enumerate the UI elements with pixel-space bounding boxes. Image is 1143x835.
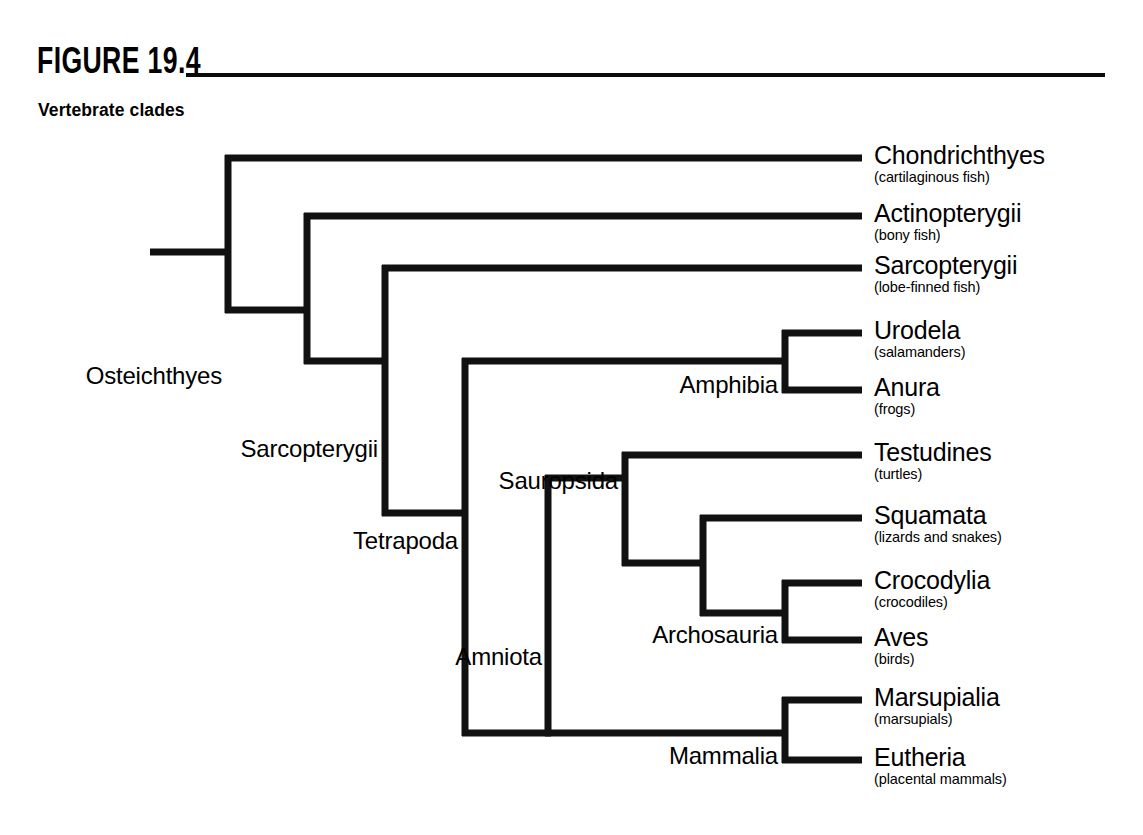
- taxon-name: Squamata: [874, 502, 1002, 529]
- taxon-name: Sarcopterygii: [874, 252, 1017, 279]
- taxon-name: Crocodylia: [874, 567, 990, 594]
- taxon-aves: Aves (birds): [874, 624, 928, 668]
- taxon-common-name: (marsupials): [874, 711, 1000, 728]
- taxon-common-name: (crocodiles): [874, 594, 990, 611]
- taxon-common-name: (cartilaginous fish): [874, 169, 1045, 186]
- cladogram: Chondrichthyes (cartilaginous fish) Acti…: [0, 0, 1143, 835]
- taxon-name: Aves: [874, 624, 928, 651]
- taxon-common-name: (birds): [874, 651, 928, 668]
- taxon-testudines: Testudines (turtles): [874, 439, 992, 483]
- taxon-common-name: (lobe-finned fish): [874, 279, 1017, 296]
- taxon-anura: Anura (frogs): [874, 374, 940, 418]
- taxon-marsupialia: Marsupialia (marsupials): [874, 684, 1000, 728]
- node-label-sarcopterygii: Sarcopterygii: [60, 435, 378, 463]
- taxon-urodela: Urodela (salamanders): [874, 317, 965, 361]
- node-label-archosauria: Archosauria: [540, 621, 778, 649]
- taxon-name: Marsupialia: [874, 684, 1000, 711]
- taxon-name: Eutheria: [874, 744, 1007, 771]
- taxon-common-name: (frogs): [874, 401, 940, 418]
- node-label-osteichthyes: Osteichthyes: [0, 362, 222, 390]
- taxon-common-name: (turtles): [874, 466, 992, 483]
- taxon-sarcopterygii: Sarcopterygii (lobe-finned fish): [874, 252, 1017, 296]
- taxon-name: Actinopterygii: [874, 200, 1021, 227]
- taxon-name: Urodela: [874, 317, 965, 344]
- taxon-squamata: Squamata (lizards and snakes): [874, 502, 1002, 546]
- taxon-crocodylia: Crocodylia (crocodiles): [874, 567, 990, 611]
- taxon-name: Anura: [874, 374, 940, 401]
- node-label-amniota: Amniota: [300, 643, 542, 671]
- node-label-amphibia: Amphibia: [560, 371, 778, 399]
- taxon-name: Chondrichthyes: [874, 142, 1045, 169]
- taxon-common-name: (placental mammals): [874, 771, 1007, 788]
- taxon-actinopterygii: Actinopterygii (bony fish): [874, 200, 1021, 244]
- taxon-eutheria: Eutheria (placental mammals): [874, 744, 1007, 788]
- node-label-mammalia: Mammalia: [540, 742, 778, 770]
- node-label-tetrapoda: Tetrapoda: [160, 527, 458, 555]
- taxon-chondrichthyes: Chondrichthyes (cartilaginous fish): [874, 142, 1045, 186]
- taxon-common-name: (salamanders): [874, 344, 965, 361]
- node-label-sauropsida: Sauropsida: [360, 467, 618, 495]
- taxon-name: Testudines: [874, 439, 992, 466]
- taxon-common-name: (lizards and snakes): [874, 529, 1002, 546]
- taxon-common-name: (bony fish): [874, 227, 1021, 244]
